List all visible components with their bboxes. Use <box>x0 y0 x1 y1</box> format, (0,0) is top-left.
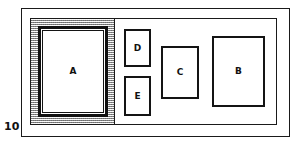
figure-number-label: 10 <box>4 121 19 132</box>
box-c: C <box>161 46 199 99</box>
box-e: E <box>124 76 151 116</box>
box-c-label: C <box>177 68 184 77</box>
box-a-label: A <box>70 67 77 76</box>
box-d: D <box>124 29 151 67</box>
box-a: A <box>42 30 104 113</box>
box-b: B <box>212 36 265 107</box>
box-b-label: B <box>235 67 242 76</box>
figure-diagram: A D E C B 10 <box>0 0 303 144</box>
box-e-label: E <box>134 92 140 101</box>
box-d-label: D <box>134 44 141 53</box>
